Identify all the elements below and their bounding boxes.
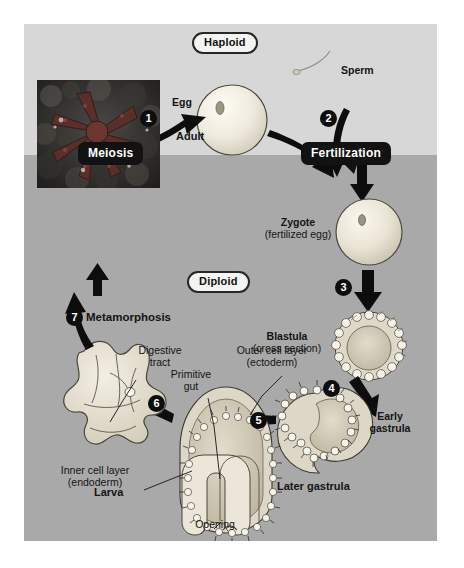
zygote-cell xyxy=(336,199,402,265)
step-number-2: 2 xyxy=(320,110,337,127)
step-number-4: 4 xyxy=(323,380,340,397)
zygote-sublabel: (fertilized egg) xyxy=(260,228,336,240)
adult-sea-star-photo xyxy=(37,80,160,188)
inner-cell-layer-sublabel: (endoderm) xyxy=(46,476,144,488)
inner-cell-layer-label: Inner cell layer xyxy=(46,464,144,476)
meiosis-callout: Meiosis xyxy=(78,142,143,165)
step-number-6: 6 xyxy=(148,395,165,412)
life-cycle-diagram: Haploid Diploid Meiosis Fertilization Me… xyxy=(24,24,437,541)
figure-canvas: Haploid Diploid Meiosis Fertilization Me… xyxy=(0,0,464,568)
early-gastrula-embryo xyxy=(272,380,373,473)
opening-group: Opening xyxy=(186,518,244,530)
diploid-label: Diploid xyxy=(187,271,250,293)
zygote-label: Zygote xyxy=(260,216,336,228)
opening-label: Opening xyxy=(186,518,244,530)
digestive-tract-label: Digestive xyxy=(132,344,188,356)
outer-cell-layer-label: Outer cell layer xyxy=(220,344,324,356)
digestive-tract-group: Digestive tract xyxy=(132,344,188,368)
metamorphosis-label: Metamorphosis xyxy=(86,311,171,323)
step-number-5: 5 xyxy=(250,412,267,429)
adult-label: Adult xyxy=(176,130,204,142)
step-number-1: 1 xyxy=(140,110,157,127)
step-number-3: 3 xyxy=(335,279,352,296)
fertilization-callout: Fertilization xyxy=(301,142,391,165)
sperm-label: Sperm xyxy=(341,64,374,76)
later-gastrula-label: Later gastrula xyxy=(277,480,350,492)
arrow-step-3 xyxy=(354,270,382,312)
early-gastrula-label: Early xyxy=(359,410,421,422)
digestive-tract-sublabel: tract xyxy=(132,356,188,368)
arrow-to-adult xyxy=(86,263,109,296)
sperm-cell xyxy=(293,51,330,75)
egg-label: Egg xyxy=(172,96,192,108)
outer-cell-layer-sublabel: (ectoderm) xyxy=(220,356,324,368)
blastula-embryo xyxy=(332,309,407,381)
outer-cell-layer-group: Outer cell layer (ectoderm) xyxy=(220,344,324,368)
primitive-gut-group: Primitive gut xyxy=(162,368,220,392)
primitive-gut-label: Primitive xyxy=(162,368,220,380)
early-gastrula-sublabel: gastrula xyxy=(359,422,421,434)
inner-cell-layer-group: Inner cell layer (endoderm) xyxy=(46,464,144,488)
blastula-label: Blastula xyxy=(240,330,334,342)
primitive-gut-sublabel: gut xyxy=(162,380,220,392)
early-gastrula-label-group: Early gastrula xyxy=(359,410,421,434)
zygote-label-group: Zygote (fertilized egg) xyxy=(260,216,336,240)
egg-cell xyxy=(197,85,267,155)
haploid-label: Haploid xyxy=(192,32,258,54)
step-number-7: 7 xyxy=(66,309,83,326)
